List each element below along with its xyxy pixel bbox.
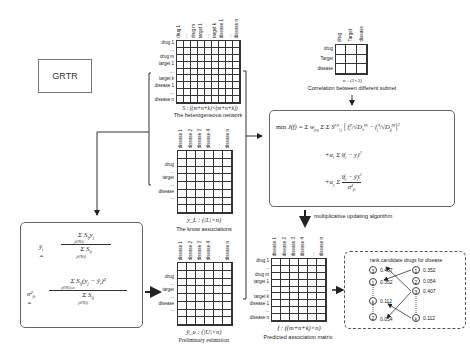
column-label: disease 3 — [198, 241, 203, 260]
matrix-cell — [223, 317, 232, 325]
matrix-cell — [272, 259, 281, 266]
matrix-cell — [281, 273, 290, 280]
column-label: disease n — [320, 237, 325, 256]
matrix-cell — [205, 286, 214, 294]
matrix-cell — [336, 64, 346, 74]
sorted-node-3: k — [369, 297, 377, 305]
matrix-cell — [233, 41, 240, 48]
row-label: ... — [170, 196, 174, 201]
row-label: ... — [170, 308, 174, 313]
matrix-cell — [290, 259, 299, 266]
column-label: disease 2 — [189, 241, 194, 260]
matrix-cell — [290, 266, 299, 273]
matrix-cell — [187, 182, 196, 190]
heterogeneous-caption: The heterogeneous network — [168, 112, 248, 118]
matrix-cell — [184, 75, 191, 82]
heterogeneous-formula: S : ((m+n+k)×(m+n+k)) — [176, 105, 244, 111]
matrix-cell — [178, 294, 187, 302]
sorted-node-2: 1 — [369, 278, 377, 286]
matrix-cell — [196, 205, 205, 213]
matrix-cell — [205, 89, 212, 96]
matrix-cell — [219, 75, 226, 82]
matrix-cell — [336, 55, 346, 65]
matrix-cell — [205, 174, 214, 182]
matrix-cell — [233, 69, 240, 76]
matrix-cell — [226, 41, 233, 48]
matrix-cell — [281, 287, 290, 294]
matrix-cell — [226, 89, 233, 96]
row-label: target 1 — [159, 62, 174, 67]
correlation-caption: Correlation between different subnet — [302, 85, 402, 91]
column-label: disease 3 — [292, 237, 297, 256]
column-label: target k — [213, 23, 218, 38]
method-box: GRTR — [38, 59, 92, 93]
predicted-formula: f : ((m+n+k)×n) — [264, 324, 334, 331]
matrix-cell — [223, 159, 232, 167]
correlation-matrix-grid — [335, 44, 368, 75]
matrix-cell — [196, 310, 205, 318]
matrix-cell — [187, 294, 196, 302]
column-label: disease 4 — [207, 129, 212, 148]
sorted-score-3: 0.112 — [380, 298, 392, 304]
matrix-cell — [299, 259, 308, 266]
matrix-cell — [178, 198, 187, 206]
matrix-cell — [191, 41, 198, 48]
matrix-cell — [205, 96, 212, 103]
objective-line-2: +α1 Σ ‖fi − yi‖2 — [325, 151, 361, 160]
matrix-cell — [191, 96, 198, 103]
matrix-cell — [187, 271, 196, 279]
matrix-cell — [214, 271, 223, 279]
matrix-cell — [196, 159, 205, 167]
row-label: target — [162, 176, 174, 181]
matrix-cell — [205, 198, 214, 206]
matrix-cell — [219, 41, 226, 48]
row-label: drug 1 — [161, 41, 174, 46]
matrix-cell — [290, 273, 299, 280]
column-label: disease n — [235, 19, 240, 38]
matrix-cell — [187, 310, 196, 318]
matrix-cell — [196, 294, 205, 302]
matrix-cell — [226, 48, 233, 55]
matrix-cell — [178, 205, 187, 213]
matrix-cell — [223, 167, 232, 175]
matrix-cell — [198, 82, 205, 89]
matrix-cell — [308, 266, 317, 273]
matrix-cell — [205, 41, 212, 48]
matrix-cell — [281, 266, 290, 273]
matrix-cell — [205, 182, 214, 190]
matrix-cell — [290, 300, 299, 307]
matrix-cell — [205, 151, 214, 159]
matrix-cell — [205, 271, 214, 279]
matrix-cell — [223, 151, 232, 159]
row-label: disease n — [250, 316, 269, 321]
column-label: disease 1 — [179, 241, 184, 260]
matrix-cell — [196, 151, 205, 159]
estimation-formulas-box: ŷi = Σ Sijyj j∈N(i) Σ Sij j∈N(i) ŷ_i = Σ… — [20, 222, 143, 328]
matrix-cell — [223, 310, 232, 318]
row-label: ... — [170, 91, 174, 96]
matrix-cell — [281, 259, 290, 266]
matrix-cell — [233, 62, 240, 69]
objective-line-3: +α2 Σ ‖fi − ŷi‖2 σ²ŷi — [325, 173, 361, 193]
matrix-cell — [317, 280, 326, 287]
matrix-cell — [198, 75, 205, 82]
matrix-cell — [214, 279, 223, 287]
matrix-cell — [214, 263, 223, 271]
matrix-cell — [178, 174, 187, 182]
matrix-cell — [299, 314, 308, 321]
row-label: disease — [158, 302, 174, 307]
matrix-cell — [299, 266, 308, 273]
matrix-cell — [191, 48, 198, 55]
matrix-cell — [226, 69, 233, 76]
matrix-cell — [299, 287, 308, 294]
matrix-cell — [272, 287, 281, 294]
original-node-4: k — [412, 314, 420, 322]
matrix-cell — [178, 286, 187, 294]
column-label: drug 1 — [177, 25, 182, 38]
matrix-cell — [219, 82, 226, 89]
objective-box: min J(f) = Σ wp,q Σ Σ Sp,qi,j | fip/√Dii… — [269, 110, 455, 207]
matrix-cell — [205, 190, 214, 198]
column-label: disease n — [226, 241, 231, 260]
sorted-score-1: 0.407 — [380, 267, 393, 273]
matrix-cell — [317, 314, 326, 321]
